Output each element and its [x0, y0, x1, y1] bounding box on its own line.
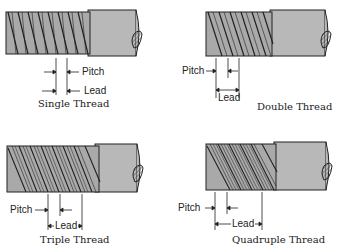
pitch-label: Pitch	[182, 65, 204, 76]
lead-label: Lead	[84, 85, 106, 96]
panel-quadruple-thread: Pitch Lead Quadruple Thread	[170, 126, 337, 252]
lead-label: Lead	[231, 218, 255, 229]
caption-triple-thread: Triple Thread	[40, 234, 110, 245]
pitch-label: Pitch	[178, 202, 200, 213]
caption-double-thread: Double Thread	[257, 101, 332, 112]
panel-single-thread: Pitch Lead Single Thread	[0, 0, 170, 126]
lead-label: Lead	[218, 92, 240, 103]
panel-double-thread: Pitch Lead Double Thread	[170, 0, 337, 126]
pitch-label: Pitch	[10, 204, 32, 215]
caption-single-thread: Single Thread	[38, 98, 109, 109]
panel-triple-thread: Pitch Lead Triple Thread	[0, 126, 170, 252]
caption-quadruple-thread: Quadruple Thread	[232, 234, 325, 245]
lead-label: Lead	[54, 220, 78, 231]
pitch-label: Pitch	[82, 66, 104, 77]
